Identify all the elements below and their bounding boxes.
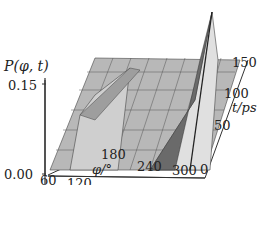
z-tick-000: 0.00 xyxy=(4,167,33,182)
y-tick-0: 0 xyxy=(200,162,208,177)
y-axis-label: t/ps xyxy=(232,100,257,115)
y-tick-100: 100 xyxy=(224,86,249,101)
x-tick-180b: 180 xyxy=(101,147,126,162)
x-tick-60b: 60 xyxy=(40,173,57,185)
z-tick-015: 0.15 xyxy=(8,78,37,93)
y-tick-150: 150 xyxy=(232,55,257,70)
x-tick-120: 120 xyxy=(67,176,92,185)
y-tick-50: 50 xyxy=(214,118,231,133)
x-tick-300: 300 xyxy=(172,163,197,178)
z-axis-label: P(φ, t) xyxy=(4,58,49,74)
x-axis-label: φ/° xyxy=(92,162,112,177)
x-tick-240: 240 xyxy=(137,159,162,174)
